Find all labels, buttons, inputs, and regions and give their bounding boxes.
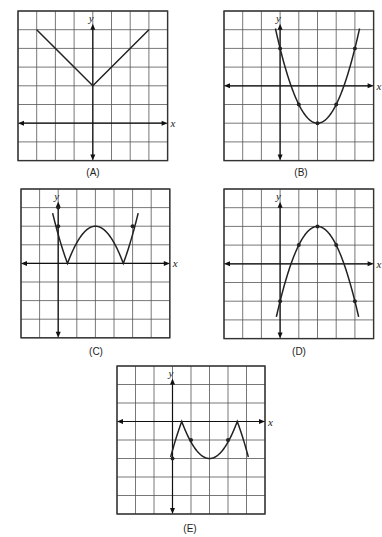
data-point bbox=[131, 224, 135, 228]
axes: xy bbox=[117, 367, 273, 514]
y-axis-label: y bbox=[275, 12, 281, 24]
y-axis-label: y bbox=[168, 367, 174, 379]
x-axis-label: x bbox=[376, 80, 382, 92]
graph-a-plot: xy bbox=[0, 0, 191, 180]
data-point bbox=[353, 46, 357, 50]
graph-e: xy (E) bbox=[100, 355, 282, 537]
data-point bbox=[56, 206, 60, 210]
caption-e: (E) bbox=[170, 523, 210, 534]
y-axis-label: y bbox=[88, 12, 94, 24]
graph-e-plot: xy bbox=[100, 355, 282, 537]
caption-d: (D) bbox=[279, 346, 319, 357]
x-axis-label: x bbox=[267, 416, 273, 428]
data-point bbox=[316, 121, 320, 125]
data-point bbox=[334, 103, 338, 107]
data-point bbox=[316, 224, 320, 228]
data-point bbox=[278, 299, 282, 303]
x-axis-label: x bbox=[376, 258, 382, 270]
x-axis-label: x bbox=[170, 117, 176, 129]
data-point bbox=[334, 243, 338, 247]
caption-b: (B) bbox=[281, 167, 321, 178]
graph-c-plot: xy bbox=[0, 180, 191, 360]
graph-c: xy (C) bbox=[0, 180, 191, 360]
axes: xy bbox=[21, 190, 178, 338]
data-point bbox=[297, 103, 301, 107]
x-axis-label: x bbox=[172, 257, 178, 269]
data-point bbox=[56, 224, 60, 228]
data-point bbox=[297, 243, 301, 247]
graph-d: xy (D) bbox=[191, 180, 382, 360]
data-point bbox=[353, 299, 357, 303]
graph-a: xy (A) bbox=[0, 0, 191, 180]
graph-b: xy (B) bbox=[191, 0, 382, 180]
graph-b-plot: xy bbox=[191, 0, 382, 180]
graph-d-plot: xy bbox=[191, 180, 382, 360]
data-point bbox=[278, 46, 282, 50]
data-point bbox=[171, 457, 175, 461]
y-axis-label: y bbox=[275, 190, 281, 202]
caption-a: (A) bbox=[73, 167, 113, 178]
y-axis-label: y bbox=[53, 190, 59, 202]
data-point bbox=[226, 438, 230, 442]
data-point bbox=[189, 438, 193, 442]
